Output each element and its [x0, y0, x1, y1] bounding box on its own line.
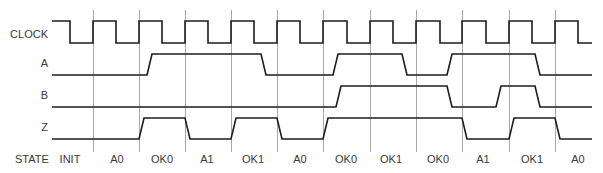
state-label: OK0	[427, 153, 449, 165]
signal-label-b: B	[41, 89, 48, 101]
state-label: A0	[110, 153, 123, 165]
waveform-clock	[52, 21, 592, 43]
signal-label-clock: CLOCK	[10, 28, 49, 40]
state-label: A0	[293, 153, 306, 165]
state-label: A1	[476, 153, 489, 165]
state-label: A0	[571, 153, 584, 165]
state-label: INIT	[60, 153, 81, 165]
state-label: OK0	[151, 153, 173, 165]
waveform-b	[52, 86, 592, 107]
state-row-label: STATE	[15, 153, 49, 165]
state-label: OK1	[521, 153, 543, 165]
signal-label-a: A	[41, 57, 49, 69]
state-label: OK0	[335, 153, 357, 165]
state-label: A1	[200, 153, 213, 165]
state-labels: INIT A0 OK0 A1 OK1 A0 OK0 OK1 OK0 A1 OK1…	[60, 153, 585, 165]
signal-label-z: Z	[41, 121, 48, 133]
waveform-a	[52, 54, 592, 75]
state-label: OK1	[380, 153, 402, 165]
state-label: OK1	[242, 153, 264, 165]
waveform-z	[52, 118, 592, 139]
timing-diagram: CLOCK A B Z STATE INIT A0 OK0 A1 OK1 A0 …	[0, 0, 603, 173]
